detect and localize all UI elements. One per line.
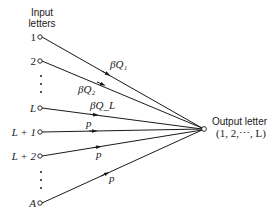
input-node-L2 [38,154,42,158]
input-node-2 [38,59,42,63]
arrow-icon [90,114,96,115]
input-label-L-plus-2: L + 2 [2,150,36,162]
edge-label-L-plus-1: p [86,117,92,129]
edge-label-2: βQ₂ [78,83,95,95]
input-label-2: 2 [2,55,36,67]
output-range: (1, 2,⋯, L) [216,127,266,139]
output-node [202,127,207,132]
input-label-1: 1 [2,31,36,43]
edge-label-A: p [109,172,115,184]
edge-label-L-plus-2: p [96,148,102,160]
edge-L2 [42,130,202,156]
edge-L [42,108,202,129]
input-header-line2: letters [22,18,62,29]
edge-L1 [42,129,202,132]
input-label-A: A [2,197,36,209]
arrow-icon [101,173,107,176]
edge-A [42,130,202,203]
input-node-A [38,201,42,205]
diagram-lines [0,0,274,219]
input-node-L1 [38,130,42,134]
input-header-line1: Input [22,7,62,18]
input-node-1 [38,35,42,39]
edge-label-L: βQ_L [90,99,115,111]
output-header: Output letter [212,116,267,127]
edge-2 [42,61,202,128]
edge-label-1: βQ₁ [110,58,127,70]
input-label-L: L [2,102,36,114]
channel-diagram: Input letters 1 2 L L + 1 L + 2 A βQ₁ βQ… [0,0,274,219]
input-node-L [38,106,42,110]
input-label-L-plus-1: L + 1 [2,126,36,138]
edge-1 [42,37,202,128]
arrow-icon [102,71,108,74]
